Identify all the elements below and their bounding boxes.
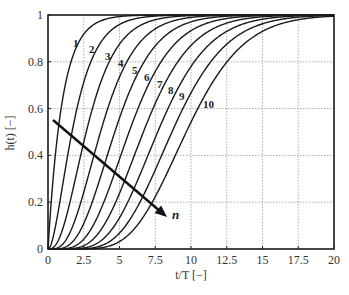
y-tick-label: 0.2 — [28, 195, 43, 209]
x-tick-label: 15 — [257, 253, 269, 267]
y-tick-label: 0.4 — [28, 148, 43, 162]
curve-label-1: 1 — [73, 37, 79, 49]
curve-label-5: 5 — [132, 64, 138, 76]
y-tick-label: 0.8 — [28, 55, 43, 69]
x-tick-label: 0 — [45, 253, 51, 267]
arrow-label-n: n — [172, 207, 179, 222]
y-tick-label: 0.6 — [28, 102, 43, 116]
x-axis-label: t/T [−] — [175, 268, 207, 282]
y-axis-label: h(t) [−] — [3, 115, 17, 150]
curve-label-9: 9 — [179, 90, 185, 102]
x-tick-label: 10 — [185, 253, 197, 267]
curve-label-8: 8 — [168, 84, 174, 96]
increasing-n-arrow: n — [53, 120, 179, 222]
x-tick-label: 5 — [117, 253, 123, 267]
curve-labels: 12345678910 — [73, 37, 215, 110]
y-tick-label: 0 — [37, 242, 43, 256]
x-tick-label: 12.5 — [216, 253, 237, 267]
x-tick-label: 20 — [328, 253, 340, 267]
erlang-step-response-chart: 12345678910 n 02.557.51012.51517.520 00.… — [0, 0, 349, 295]
curve-label-6: 6 — [144, 71, 150, 83]
curve-label-2: 2 — [89, 43, 95, 55]
x-tick-label: 17.5 — [288, 253, 309, 267]
arrow-shaft — [53, 120, 161, 212]
curve-label-3: 3 — [105, 50, 111, 62]
x-tick-label: 2.5 — [76, 253, 91, 267]
curve-label-10: 10 — [203, 98, 215, 110]
curve-label-7: 7 — [157, 78, 163, 90]
x-tick-label: 7.5 — [148, 253, 163, 267]
curve-label-4: 4 — [118, 57, 124, 69]
y-tick-label: 1 — [37, 8, 43, 22]
